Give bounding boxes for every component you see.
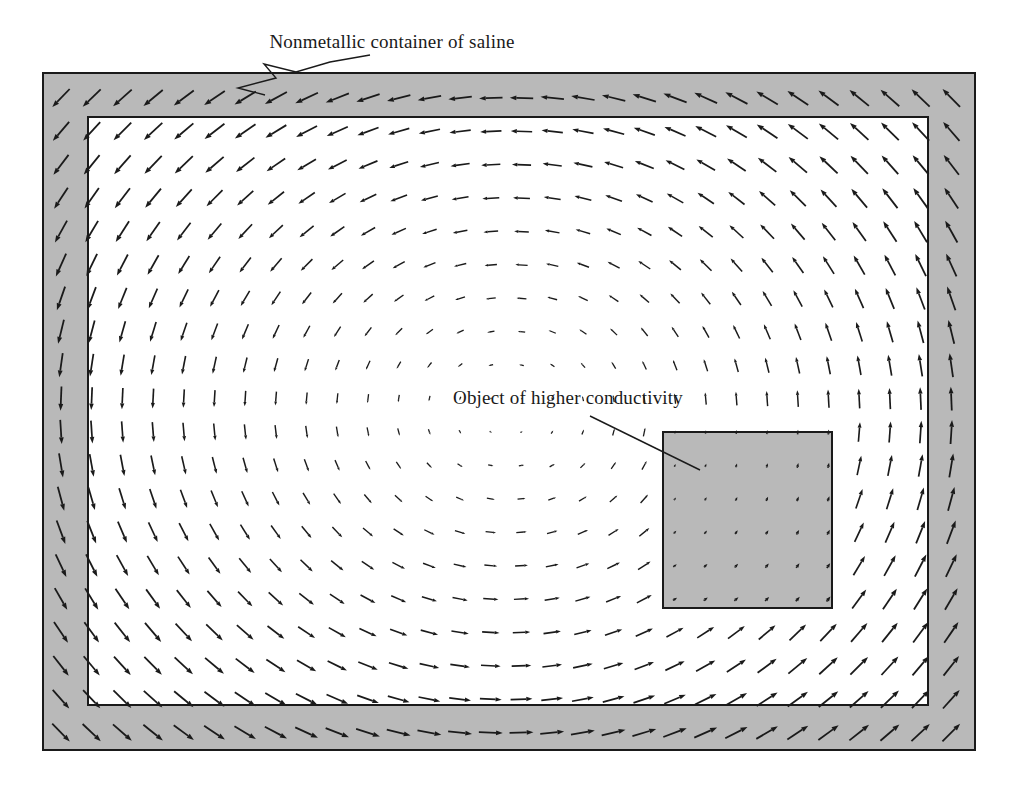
- conductive-object: [663, 432, 832, 608]
- saline-interior: [88, 117, 928, 705]
- figure-canvas: Nonmetallic container of salineObject of…: [0, 0, 1016, 793]
- container-label-text: Nonmetallic container of saline: [269, 31, 514, 52]
- vector-field-figure: Nonmetallic container of salineObject of…: [0, 0, 1016, 793]
- object-label-text: Object of higher conductivity: [453, 387, 683, 408]
